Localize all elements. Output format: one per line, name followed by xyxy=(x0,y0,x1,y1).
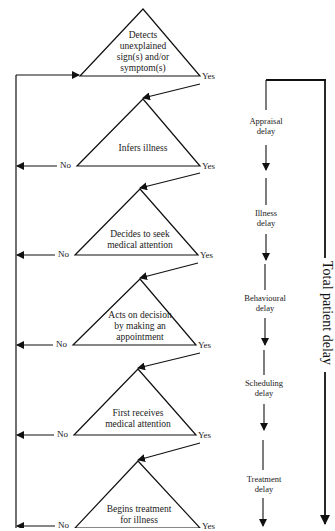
stage-label-infers-illness: Infers illness xyxy=(95,143,191,154)
stage-label-decides-seek: Decides to seek medical attention xyxy=(88,229,192,251)
no-label-4: No xyxy=(56,339,67,349)
no-label-6: No xyxy=(58,520,69,530)
delay-label-appraisal: Appraisal delay xyxy=(236,116,296,138)
delay-label-behavioural: Behavioural delay xyxy=(230,293,300,315)
delay-label-treatment: Treatment delay xyxy=(232,474,296,496)
stage-label-detects: Detects unexplained sign(s) and/or sympt… xyxy=(100,30,186,74)
no-label-3: No xyxy=(58,249,69,259)
yes-label-4: Yes xyxy=(198,340,211,350)
stage-label-begins-treatment: Begins treatment for illness xyxy=(86,504,192,526)
stage-label-first-receives: First receives medical attention xyxy=(85,408,191,430)
yes-label-1: Yes xyxy=(202,71,215,81)
yes-label-6: Yes xyxy=(202,521,215,531)
total-patient-delay-label: Total patient delay xyxy=(319,258,335,368)
yes-label-2: Yes xyxy=(202,161,215,171)
stage-triangle-2 xyxy=(77,99,200,166)
yes-label-3: Yes xyxy=(200,250,213,260)
delay-label-illness: Illness delay xyxy=(236,208,296,230)
yes-label-5: Yes xyxy=(198,430,211,440)
stage-label-acts-on-decision: Acts on decision by making an appointmen… xyxy=(96,310,184,343)
delay-label-scheduling: Scheduling delay xyxy=(232,378,296,400)
no-label-5: No xyxy=(57,429,68,439)
no-label-2: No xyxy=(60,160,71,170)
